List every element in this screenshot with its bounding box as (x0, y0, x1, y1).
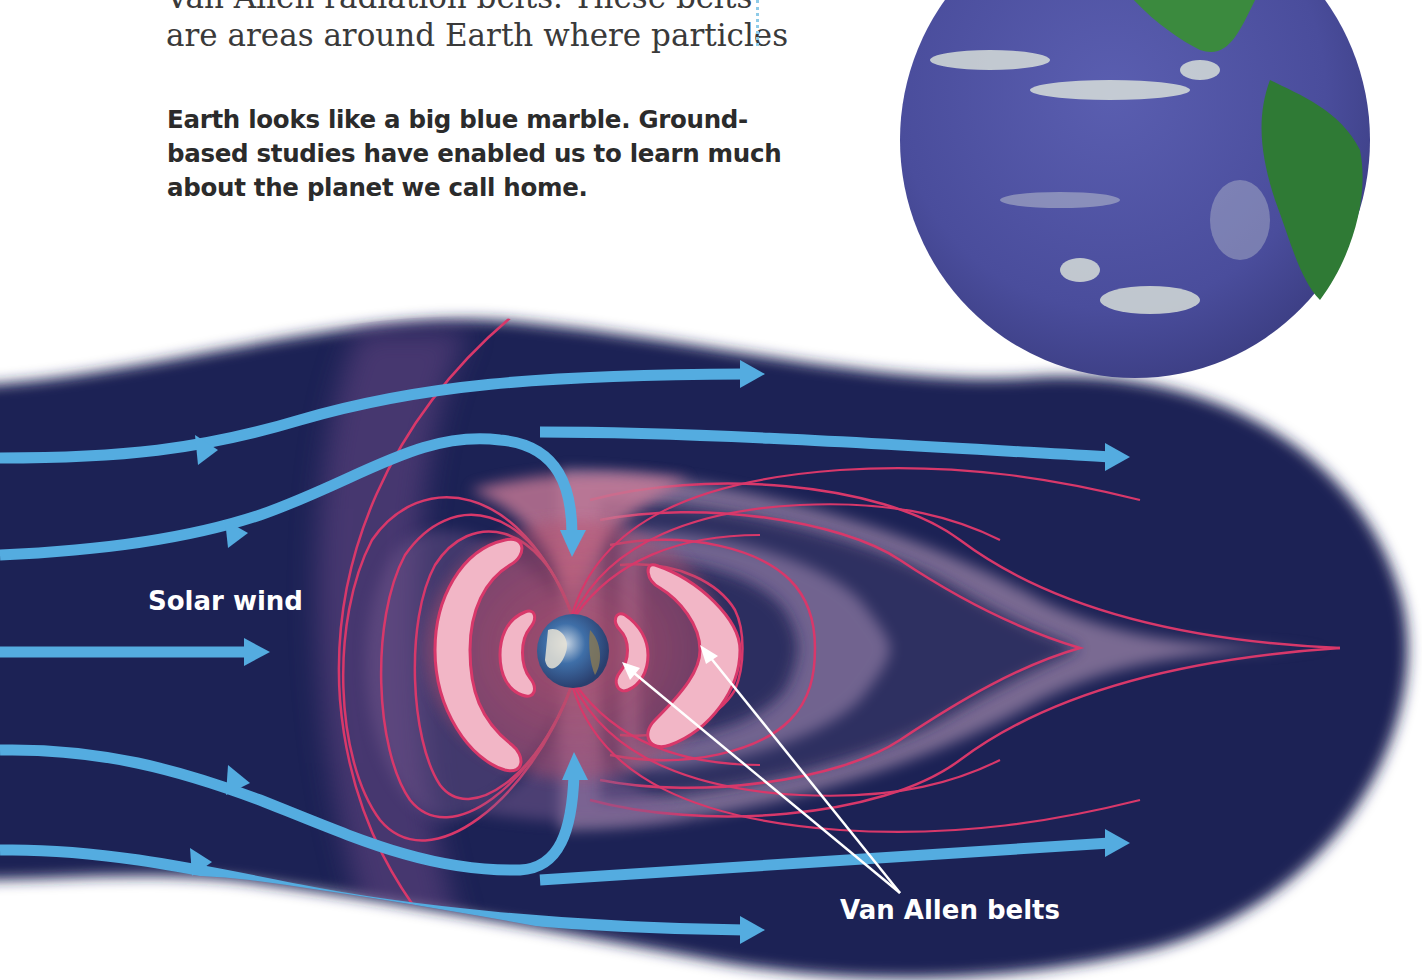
solar-wind-label: Solar wind (148, 586, 303, 616)
earth-icon (537, 614, 609, 688)
magnetosphere-diagram (0, 0, 1422, 980)
van-allen-belts-label: Van Allen belts (840, 895, 1060, 925)
earth-photo (900, 0, 1370, 378)
